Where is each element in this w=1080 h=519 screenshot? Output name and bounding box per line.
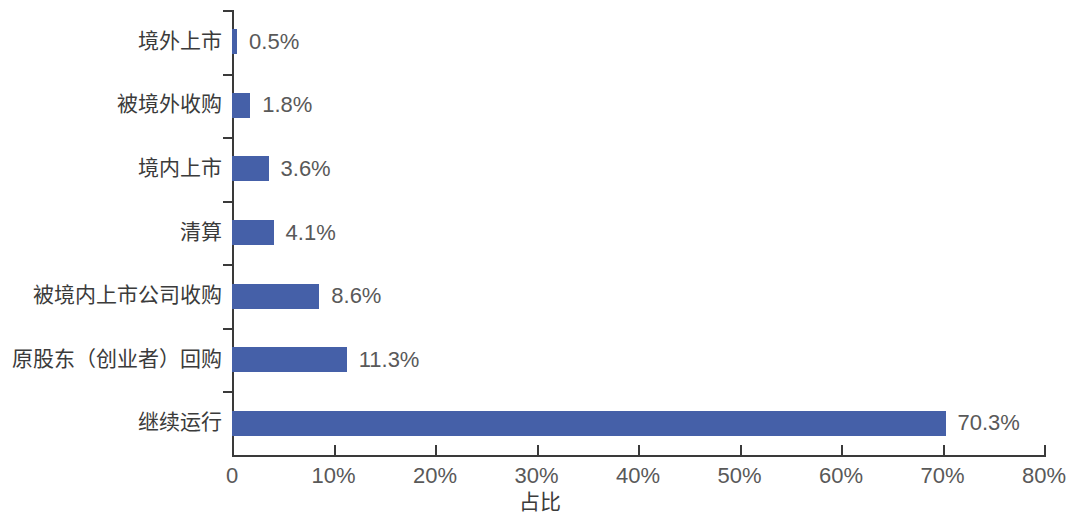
bar (232, 411, 946, 436)
value-label: 8.6% (331, 283, 381, 308)
x-tick-label: 0 (226, 462, 238, 490)
category-label: 境外上市 (0, 29, 222, 54)
y-axis-tick (223, 201, 232, 203)
x-axis-tick (435, 445, 437, 455)
value-label: 11.3% (359, 347, 420, 372)
x-axis-tick (943, 445, 945, 455)
bar (232, 93, 250, 118)
x-tick-label: 50% (717, 462, 761, 490)
category-label: 被境外收购 (0, 92, 222, 117)
y-axis-tick (223, 328, 232, 330)
bar (232, 347, 347, 372)
bar (232, 284, 319, 309)
value-label: 0.5% (249, 29, 299, 54)
category-label: 被境内上市公司收购 (0, 283, 222, 308)
x-axis-tick (232, 445, 234, 455)
x-axis-tick (537, 445, 539, 455)
y-axis-tick (223, 137, 232, 139)
x-axis-tick (740, 445, 742, 455)
category-label: 继续运行 (0, 410, 222, 435)
x-axis-title: 占比 (0, 489, 1080, 515)
bar-chart: 境外上市被境外收购境内上市清算被境内上市公司收购原股东（创业者）回购继续运行 0… (0, 0, 1080, 519)
value-label: 3.6% (281, 156, 331, 181)
bar (232, 220, 274, 245)
y-axis-tick (223, 391, 232, 393)
x-tick-label: 30% (514, 462, 558, 490)
category-label: 原股东（创业者）回购 (0, 347, 222, 372)
bar (232, 29, 237, 54)
x-tick-label: 60% (819, 462, 863, 490)
y-axis-tick (223, 264, 232, 266)
x-tick-label: 10% (311, 462, 355, 490)
x-tick-label: 20% (413, 462, 457, 490)
value-label: 4.1% (286, 220, 336, 245)
x-axis-tick (334, 445, 336, 455)
x-tick-label: 80% (1022, 462, 1066, 490)
x-axis-tick (1044, 445, 1046, 455)
x-tick-label: 70% (920, 462, 964, 490)
y-axis-tick (223, 74, 232, 76)
x-axis-tick (841, 445, 843, 455)
y-axis-tick (223, 10, 232, 12)
value-label: 1.8% (262, 92, 312, 117)
x-axis-line (232, 455, 1046, 457)
value-label: 70.3% (958, 410, 1020, 435)
bar (232, 156, 269, 181)
x-axis-tick (638, 445, 640, 455)
x-tick-label: 40% (616, 462, 660, 490)
category-label: 境内上市 (0, 156, 222, 181)
category-label: 清算 (0, 220, 222, 245)
